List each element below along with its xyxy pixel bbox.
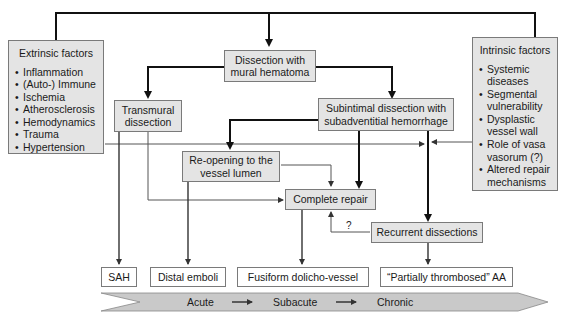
list-item: Role of vasa vasorum (?) (479, 138, 551, 163)
repair-label: Complete repair (293, 193, 368, 206)
list-item: Atherosclerosis (15, 103, 96, 116)
list-item: Altered repair mechanisms (479, 163, 551, 188)
timeline-acute: Acute (187, 296, 214, 308)
sah-label: SAH (108, 271, 130, 284)
intrinsic-factors-box: Intrinsic factors Systemic diseases Segm… (472, 37, 558, 191)
timeline-band (101, 293, 548, 311)
list-item: (Auto-) Immune (15, 78, 96, 91)
outcome-fusiform: Fusiform dolicho-vessel (237, 267, 369, 287)
transmural-label: Transmural dissection (115, 104, 181, 129)
list-item: Dysplastic vessel wall (479, 113, 551, 138)
list-item: Hemodynamics (15, 116, 96, 129)
extrinsic-factors-box: Extrinsic factors Inflammation (Auto-) I… (8, 40, 104, 154)
recurrent-dissections-node: Recurrent dissections (371, 222, 483, 243)
fusiform-label: Fusiform dolicho-vessel (248, 271, 358, 284)
list-item: Segmental vulnerability (479, 88, 551, 113)
list-item: Hypertension (15, 141, 96, 154)
extrinsic-factors-list: Inflammation (Auto-) Immune Ischemia Ath… (15, 66, 96, 154)
dissection-node: Dissection with mural hematoma (224, 50, 316, 82)
subintimal-node: Subintimal dissection with subadventitia… (318, 98, 454, 131)
question-mark-label: ? (346, 220, 352, 231)
outcome-sah: SAH (101, 267, 137, 287)
thrombosed-label: “Partially thrombosed” AA (387, 271, 506, 284)
recurrent-label: Recurrent dissections (377, 226, 478, 239)
timeline-subacute: Subacute (273, 296, 317, 308)
timeline-chronic: Chronic (377, 296, 413, 308)
reopening-label: Re-opening to the vessel lumen (183, 154, 279, 179)
extrinsic-factors-title: Extrinsic factors (15, 47, 97, 60)
subintimal-label: Subintimal dissection with subadventitia… (319, 102, 453, 127)
outcome-distal-emboli: Distal emboli (150, 267, 226, 287)
transmural-node: Transmural dissection (114, 100, 182, 132)
list-item: Systemic diseases (479, 63, 551, 88)
list-item: Inflammation (15, 66, 96, 79)
emboli-label: Distal emboli (158, 271, 218, 284)
list-item: Ischemia (15, 91, 96, 104)
list-item: Trauma (15, 128, 96, 141)
intrinsic-factors-list: Systemic diseases Segmental vulnerabilit… (479, 63, 551, 189)
reopening-node: Re-opening to the vessel lumen (182, 151, 280, 182)
intrinsic-factors-title: Intrinsic factors (479, 44, 551, 57)
outcome-thrombosed: “Partially thrombosed” AA (380, 267, 513, 287)
dissection-label: Dissection with mural hematoma (225, 54, 315, 79)
complete-repair-node: Complete repair (285, 189, 376, 210)
